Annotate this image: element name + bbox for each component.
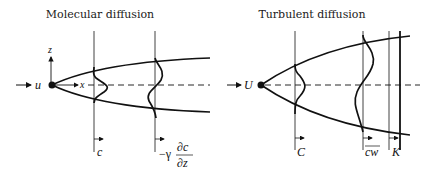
point-source [49, 82, 56, 89]
molecular-title: Molecular diffusion [46, 8, 154, 21]
plume-lower-boundary [52, 85, 210, 112]
plume-lower-boundary [261, 85, 410, 135]
profile-label-cw: cw [365, 145, 378, 159]
profile-label-K: K [391, 145, 401, 159]
x-axis-label: x [79, 79, 85, 90]
point-source [258, 82, 265, 89]
profile-label-c: c [97, 145, 103, 159]
plume-upper-boundary [261, 36, 410, 85]
z-axis-label: z [47, 44, 52, 55]
plume-upper-boundary [52, 58, 210, 85]
flux-numerator: ∂c [177, 140, 189, 154]
turbulent-title: Turbulent diffusion [258, 8, 365, 21]
molecular-diffusion-panel: Molecular diffusion u z x c −γ ∂c ∂z [16, 8, 210, 170]
turbulent-flux-profile [355, 35, 373, 132]
turbulent-diffusion-panel: Turbulent diffusion U C cw K [227, 8, 420, 159]
flow-label-U: U [244, 78, 254, 92]
flow-label-u: u [35, 78, 41, 92]
diffusion-diagram: Molecular diffusion u z x c −γ ∂c ∂z Tur [0, 0, 424, 174]
profile-label-C: C [297, 145, 306, 159]
flux-prefix: −γ [159, 147, 172, 161]
flux-denominator: ∂z [177, 156, 188, 170]
